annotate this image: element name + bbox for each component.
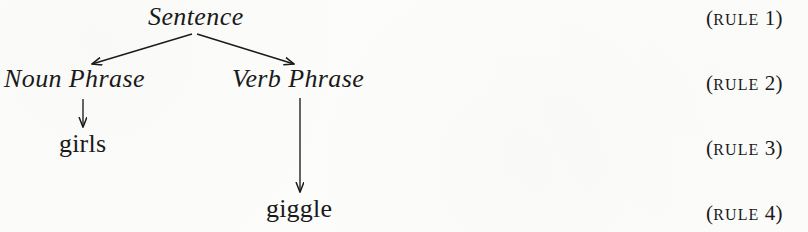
rule-label-3: (RULE 3) bbox=[706, 138, 783, 159]
tree-edges bbox=[0, 0, 808, 232]
rule-close-paren: ) bbox=[776, 136, 783, 160]
rule-label-2: (RULE 2) bbox=[706, 73, 783, 94]
rule-close-paren: ) bbox=[776, 201, 783, 225]
edge-sentence-to-verb-phrase bbox=[197, 34, 294, 64]
rule-word: RULE bbox=[713, 76, 759, 93]
rule-word: RULE bbox=[713, 141, 759, 158]
rule-label-4: (RULE 4) bbox=[706, 203, 783, 224]
tree-node-verb-phrase: Verb Phrase bbox=[232, 66, 364, 92]
rule-number-value: 4 bbox=[765, 201, 776, 225]
rule-number-value: 3 bbox=[765, 136, 776, 160]
tree-node-sentence: Sentence bbox=[148, 4, 244, 30]
rule-number-value: 2 bbox=[765, 71, 776, 95]
rule-word: RULE bbox=[713, 11, 759, 28]
rule-close-paren: ) bbox=[776, 71, 783, 95]
tree-node-noun-phrase: Noun Phrase bbox=[4, 66, 145, 92]
rule-close-paren: ) bbox=[776, 6, 783, 30]
tree-node-girls: girls bbox=[59, 131, 106, 157]
tree-node-giggle: giggle bbox=[266, 196, 332, 222]
edge-sentence-to-noun-phrase bbox=[92, 34, 192, 64]
derivation-figure: Sentence Noun Phrase Verb Phrase girls g… bbox=[0, 0, 808, 232]
rule-label-1: (RULE 1) bbox=[706, 8, 783, 29]
rule-number-value: 1 bbox=[765, 6, 776, 30]
rule-word: RULE bbox=[713, 206, 759, 223]
